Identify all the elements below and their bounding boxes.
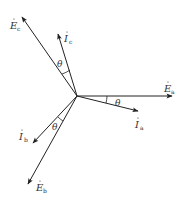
label-ea: E a: [163, 81, 175, 95]
angle-arc-a: [106, 96, 107, 103]
angle-arc-b: [58, 117, 63, 121]
phasor-diagram: E a I a E c I c E b I b θ θ θ: [0, 0, 188, 200]
theta-label-c: θ: [57, 59, 63, 69]
svg-text:b: b: [43, 187, 47, 194]
theta-label-a: θ: [115, 98, 121, 108]
label-ic: I c: [63, 31, 73, 45]
label-ec: E c: [9, 18, 21, 32]
phasor-ec-arrow: [22, 17, 77, 96]
svg-text:a: a: [171, 88, 175, 95]
svg-text:c: c: [69, 38, 73, 45]
svg-text:c: c: [17, 25, 21, 32]
label-ib: I b: [18, 129, 28, 143]
phasor-ia-arrow: [77, 96, 138, 111]
label-eb: E b: [35, 180, 47, 194]
angle-arc-c: [62, 70, 70, 74]
svg-text:a: a: [140, 124, 144, 131]
svg-text:b: b: [24, 136, 28, 143]
label-ia: I a: [134, 117, 144, 131]
theta-label-b: θ: [52, 122, 58, 132]
